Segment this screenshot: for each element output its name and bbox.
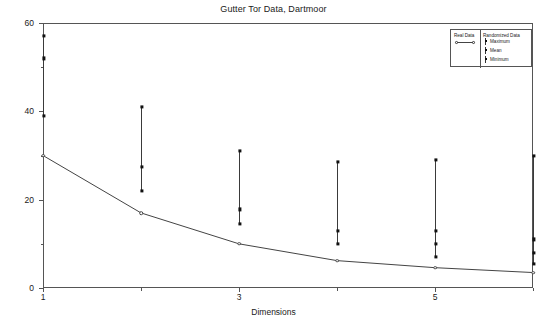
x-tick-label: 3 [237,292,242,302]
randomized-extra-marker [434,242,437,245]
y-tick-label: 60 [8,18,34,28]
randomized-min-marker [434,255,437,258]
randomized-max-marker [336,161,339,164]
legend-label-minimum: Minimum [490,57,509,62]
x-tick-label: 1 [41,292,46,302]
legend-marker-mean [485,49,487,51]
x-tick-mark [43,288,44,292]
legend-marker-minimum [485,58,487,60]
randomized-max-marker [532,154,535,157]
y-tick-mark-minor [41,244,44,245]
legend-header-randomized-data: Randomized Data [483,33,520,38]
randomized-mean-marker [42,57,45,60]
x-tick-mark [239,288,240,292]
real-data-point [433,266,437,270]
y-tick-label: 0 [8,283,34,293]
randomized-error-bar [533,156,534,264]
legend-marker-maximum [485,40,487,42]
legend-label-maximum: Maximum [490,39,510,44]
randomized-error-bar [141,107,142,191]
randomized-max-marker [140,105,143,108]
legend-label-mean: Mean [490,48,502,53]
real-data-point [531,271,535,275]
randomized-min-marker [336,242,339,245]
randomized-max-marker [42,35,45,38]
randomized-error-bar [43,36,44,116]
chart-title: Gutter Tor Data, Dartmoor [0,4,547,14]
x-tick-mark-minor [337,288,338,291]
real-data-point [139,211,143,215]
randomized-error-bar [239,151,240,224]
y-tick-mark-minor [41,67,44,68]
y-tick-mark [39,23,43,24]
randomized-mean-marker [336,229,339,232]
legend-box: Real Data Randomized Data Maximum Mean M… [450,29,532,67]
legend-header-real-data: Real Data [454,33,474,38]
legend-real-data-endpoint-right [472,41,475,44]
y-tick-mark [39,200,43,201]
y-tick-label: 20 [8,195,34,205]
randomized-min-marker [238,222,241,225]
randomized-mean-marker [140,165,143,168]
legend-divider [480,30,481,68]
x-axis-label: Dimensions [0,307,547,317]
real-data-point [237,242,241,246]
chart-page: Gutter Tor Data, Dartmoor Stress Dimensi… [0,0,547,332]
x-tick-mark [435,288,436,292]
randomized-min-marker [42,114,45,117]
x-tick-label: 5 [433,292,438,302]
real-data-point [335,259,339,263]
randomized-mean-marker [434,229,437,232]
randomized-extra-marker [532,251,535,254]
randomized-max-marker [238,149,241,152]
y-tick-label: 40 [8,106,34,116]
randomized-min-marker [532,262,535,265]
legend-real-data-endpoint-left [455,41,458,44]
randomized-max-marker [434,158,437,161]
randomized-min-marker [140,189,143,192]
x-tick-mark-minor [533,288,534,291]
randomized-mean-marker [532,238,535,241]
y-tick-mark-minor [41,156,44,157]
y-tick-mark [39,111,43,112]
x-tick-mark-minor [141,288,142,291]
randomized-mean-marker [238,208,241,211]
